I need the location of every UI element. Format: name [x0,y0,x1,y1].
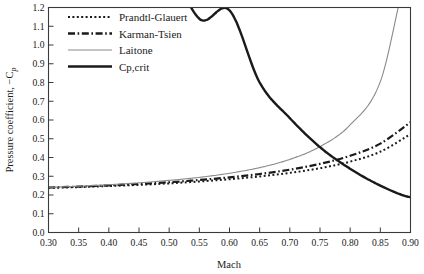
y-tick-label: 0.4 [33,152,45,163]
y-tick-label: 0.3 [33,171,45,182]
chart-figure: 0.300.350.400.450.500.550.600.650.700.75… [0,0,424,274]
y-tick-label: 0.0 [33,227,45,238]
y-axis-ticks [49,8,54,233]
curve-prandtl-glauert [49,134,411,188]
y-tick-label: 1.2 [33,2,45,13]
x-tick-label: 0.45 [131,237,148,248]
y-tick-label: 0.7 [33,96,45,107]
x-tick-label: 0.55 [191,237,208,248]
curve-cp-crit [49,0,411,197]
x-tick-label: 0.80 [342,237,359,248]
x-axis-ticks [49,228,411,233]
y-tick-label: 1.0 [33,39,45,50]
y-axis-tick-labels: 0.00.10.20.30.40.50.60.70.80.91.01.11.2 [33,2,45,238]
legend-label-prandtl-glauert: Prandtl-Glauert [119,11,187,23]
x-tick-label: 0.50 [161,237,178,248]
x-tick-label: 0.75 [312,237,329,248]
pressure-coefficient-vs-mach-chart: 0.300.350.400.450.500.550.600.650.700.75… [0,0,424,274]
y-tick-label: 1.1 [33,21,45,32]
y-tick-label: 0.9 [33,58,45,69]
x-tick-label: 0.90 [402,237,419,248]
x-tick-label: 0.70 [281,237,298,248]
x-tick-label: 0.30 [40,237,57,248]
y-tick-label: 0.5 [33,133,45,144]
curve-group [49,0,411,197]
legend-label-karman-tsien: Karman-Tsien [119,28,182,40]
x-tick-label: 0.35 [70,237,87,248]
y-axis-title: Pressure coefficient, −Cp [4,67,18,172]
x-axis-title: Mach [217,259,242,270]
y-axis-title-group: Pressure coefficient, −Cp [4,67,18,172]
legend-label-laitone: Laitone [119,44,153,56]
y-tick-label: 0.8 [33,77,45,88]
curve-karman-tsien [49,122,411,187]
plot-frame [49,8,411,233]
x-axis-tick-labels: 0.300.350.400.450.500.550.600.650.700.75… [40,237,419,248]
x-tick-label: 0.65 [251,237,268,248]
y-tick-label: 0.2 [33,189,45,200]
x-tick-label: 0.85 [372,237,389,248]
y-tick-label: 0.1 [33,208,45,219]
legend-label-cp-crit: Cp,crit [119,61,149,73]
x-tick-label: 0.40 [100,237,117,248]
y-tick-label: 0.6 [33,114,45,125]
x-tick-label: 0.60 [221,237,238,248]
chart-legend: Prandtl-GlauertKarman-TsienLaitoneCp,cri… [68,11,187,73]
